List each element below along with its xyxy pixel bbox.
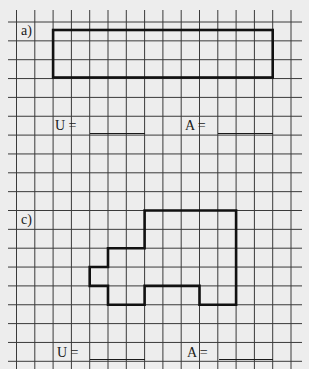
exercise-a-perimeter-answer-blank[interactable] xyxy=(90,133,145,134)
exercise-c-perimeter-answer-blank[interactable] xyxy=(90,359,145,360)
exercise-a-area-answer-blank[interactable] xyxy=(218,133,273,134)
exercise-c-label: c) xyxy=(21,213,32,227)
exercise-c-area-label: A = xyxy=(187,346,208,360)
exercise-a-label: a) xyxy=(21,24,32,38)
grid-paper xyxy=(0,0,309,369)
exercise-a-area-label: A = xyxy=(185,119,206,133)
exercise-c-perimeter-label: U = xyxy=(57,346,79,360)
exercise-a-perimeter-label: U = xyxy=(55,119,77,133)
exercise-c-area-answer-blank[interactable] xyxy=(219,359,273,360)
